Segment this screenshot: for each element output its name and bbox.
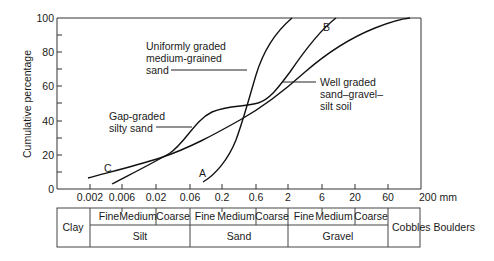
y-tick-0: 0 xyxy=(48,183,54,195)
x-tick-0.002: 0.002 xyxy=(77,191,103,203)
annotation-well-graded: Well graded sand–gravel– silt soil xyxy=(282,76,383,112)
sand-medium: Medium xyxy=(217,210,255,222)
svg-text:Uniformly graded: Uniformly graded xyxy=(146,40,226,52)
silt-fine: Fine xyxy=(99,210,120,222)
x-tick-0.06: 0.06 xyxy=(180,191,201,203)
y-tick-80: 80 xyxy=(42,46,54,58)
y-tick-20: 20 xyxy=(42,149,54,161)
x-tick-200: 200 mm xyxy=(419,191,457,203)
x-tick-0.2: 0.2 xyxy=(215,191,230,203)
gravel-fine: Fine xyxy=(294,210,315,222)
x-tick-0.6: 0.6 xyxy=(249,191,264,203)
curve-c-marker: C xyxy=(104,162,112,174)
silt-coarse: Coarse xyxy=(156,210,190,222)
svg-text:Well graded: Well graded xyxy=(320,76,376,88)
x-tick-2: 2 xyxy=(285,191,291,203)
y-axis-ticks xyxy=(57,35,62,172)
x-tick-0.006: 0.006 xyxy=(109,191,135,203)
y-tick-60: 60 xyxy=(42,80,54,92)
table-cobbles-boulders: Cobbles Boulders xyxy=(392,221,475,233)
svg-text:silty sand: silty sand xyxy=(109,122,153,134)
x-axis-ticks xyxy=(90,184,388,189)
svg-text:medium-grained: medium-grained xyxy=(146,52,222,64)
svg-text:sand–gravel–: sand–gravel– xyxy=(320,88,383,100)
x-tick-20: 20 xyxy=(349,191,361,203)
silt-medium: Medium xyxy=(119,210,157,222)
svg-text:Gap-graded: Gap-graded xyxy=(109,110,165,122)
y-tick-100: 100 xyxy=(36,12,54,24)
x-axis-tick-labels: 0.002 0.006 0.02 0.06 0.2 0.6 2 6 20 60 … xyxy=(77,191,457,203)
curve-b-marker: B xyxy=(323,21,330,33)
gravel-coarse: Coarse xyxy=(354,210,388,222)
table-sand: Sand xyxy=(227,230,252,242)
x-tick-60: 60 xyxy=(382,191,394,203)
y-axis-tick-labels: 0 20 40 60 80 100 xyxy=(36,12,54,195)
annotation-gap-graded: Gap-graded silty sand xyxy=(109,110,192,134)
annotation-uniformly-graded: Uniformly graded medium-grained sand xyxy=(146,40,247,76)
gravel-medium: Medium xyxy=(315,210,353,222)
table-gravel: Gravel xyxy=(323,230,354,242)
x-tick-0.02: 0.02 xyxy=(146,191,167,203)
table-silt: Silt xyxy=(133,230,148,242)
particle-size-distribution-chart: Cumulative percentage 0 20 40 60 80 100 xyxy=(0,0,494,261)
table-clay: Clay xyxy=(62,221,84,233)
soil-classification-table: Clay Fine Medium Coarse Silt Fine Medium… xyxy=(57,208,475,247)
plot-frame xyxy=(57,18,421,189)
sand-fine: Fine xyxy=(195,210,216,222)
curve-a-marker: A xyxy=(199,167,206,179)
y-tick-40: 40 xyxy=(42,115,54,127)
x-tick-6: 6 xyxy=(319,191,325,203)
sand-coarse: Coarse xyxy=(255,210,289,222)
svg-text:sand: sand xyxy=(146,64,169,76)
y-axis-label: Cumulative percentage xyxy=(21,50,33,158)
svg-text:silt soil: silt soil xyxy=(320,100,352,112)
